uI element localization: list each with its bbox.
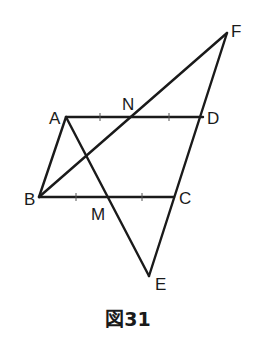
label-n: N <box>122 95 134 114</box>
label-e: E <box>155 275 166 294</box>
figure-caption: 図31 <box>105 308 150 330</box>
equal-tick-marks <box>76 113 169 201</box>
label-m: M <box>91 205 105 224</box>
label-f: F <box>231 22 241 41</box>
geometry-figure: A N D F B M C E 図31 <box>0 0 256 340</box>
label-b: B <box>24 190 35 209</box>
label-d: D <box>207 109 219 128</box>
segment-ef <box>149 33 227 276</box>
label-c: C <box>179 189 191 208</box>
label-a: A <box>49 109 61 128</box>
segment-bf <box>39 33 227 197</box>
